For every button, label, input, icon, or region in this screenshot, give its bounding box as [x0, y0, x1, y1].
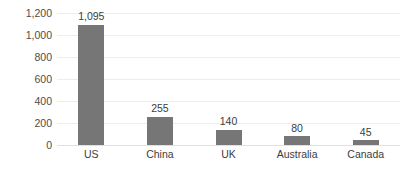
y-axis-tick-label: 1,200 [0, 8, 52, 19]
bar[interactable] [284, 136, 310, 145]
bar-value-label: 140 [220, 116, 238, 127]
bars-layer: 1,0952551408045 [57, 13, 400, 145]
bar-group[interactable]: 45 [332, 13, 400, 145]
bar-value-label: 45 [360, 127, 372, 138]
y-axis-tick-label: 0 [0, 140, 52, 151]
bar-group[interactable]: 80 [263, 13, 331, 145]
bar[interactable] [147, 117, 173, 145]
bar-chart: 02004006008001,0001,200 1,0952551408045 … [0, 0, 419, 173]
y-axis: 02004006008001,0001,200 [0, 13, 52, 145]
y-axis-tick-label: 800 [0, 52, 52, 63]
bar-value-label: 255 [151, 103, 169, 114]
y-axis-tick-label: 1,000 [0, 30, 52, 41]
bar[interactable] [78, 25, 104, 145]
bar[interactable] [216, 130, 242, 145]
bar-group[interactable]: 1,095 [57, 13, 125, 145]
bar-value-label: 1,095 [78, 11, 104, 22]
bar-group[interactable]: 140 [195, 13, 263, 145]
y-axis-tick-label: 400 [0, 96, 52, 107]
y-axis-tick-label: 200 [0, 118, 52, 129]
gridline [57, 145, 400, 146]
x-axis: USChinaUKAustraliaCanada [57, 149, 400, 169]
x-axis-category-label: Canada [326, 149, 406, 160]
bar-value-label: 80 [291, 123, 303, 134]
bar[interactable] [353, 140, 379, 145]
y-axis-tick-label: 600 [0, 74, 52, 85]
bar-group[interactable]: 255 [126, 13, 194, 145]
